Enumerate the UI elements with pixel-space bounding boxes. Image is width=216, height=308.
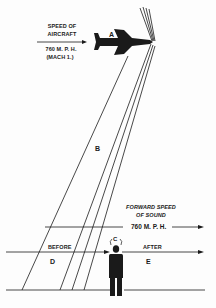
shock-lines-lower	[22, 44, 155, 290]
shock-region-marker-b: B	[95, 145, 100, 152]
timeline-arrow	[6, 250, 204, 254]
before-label: BEFORE	[48, 245, 72, 251]
observer-person-icon	[109, 239, 123, 296]
aircraft-marker-a: A	[109, 31, 114, 38]
before-marker-d: D	[50, 258, 55, 265]
aircraft-speed-label-line2: AIRCRAFT	[44, 32, 80, 38]
aircraft-speed-arrow	[37, 40, 87, 44]
sound-speed-arrow	[45, 225, 204, 229]
observer-marker-c: C	[113, 236, 117, 242]
after-label: AFTER	[143, 245, 162, 251]
sound-speed-value: 760 M. P. H.	[131, 224, 166, 231]
aircraft-speed-value: 760 M. P. H.	[38, 47, 84, 53]
aircraft-mach-value: (MACH 1.)	[40, 55, 80, 61]
after-marker-e: E	[146, 258, 151, 265]
sound-speed-label-line2: OF SOUND	[130, 213, 172, 219]
diagram-graphics	[0, 0, 216, 308]
sonic-boom-diagram: SPEED OF AIRCRAFT 760 M. P. H. (MACH 1.)…	[0, 0, 216, 308]
aircraft-icon	[94, 29, 153, 55]
sound-speed-label-line1: FORWARD SPEED	[126, 205, 176, 211]
aircraft-speed-label-line1: SPEED OF	[44, 24, 80, 30]
shock-lines-upper	[140, 7, 155, 41]
